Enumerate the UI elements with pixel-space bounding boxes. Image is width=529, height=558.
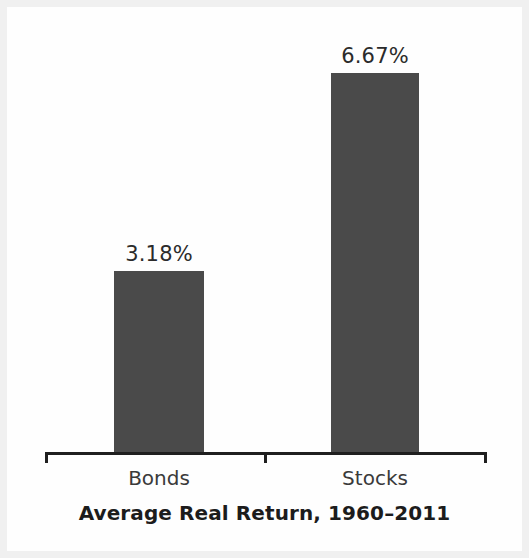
- plot-area: 3.18% 6.67%: [45, 20, 487, 452]
- x-axis-label-stocks: Stocks: [295, 466, 455, 490]
- chart-figure: 3.18% 6.67% Bonds Stocks Average Real Re…: [0, 0, 529, 558]
- x-axis-tick-left: [45, 452, 48, 463]
- x-axis-label-bonds: Bonds: [79, 466, 239, 490]
- bar-bonds[interactable]: [114, 271, 204, 452]
- x-axis-tick-center: [264, 452, 267, 463]
- bar-value-label-stocks: 6.67%: [341, 44, 409, 68]
- x-axis-tick-right: [484, 452, 487, 463]
- bar-value-label-bonds: 3.18%: [125, 242, 193, 266]
- chart-canvas: 3.18% 6.67% Bonds Stocks Average Real Re…: [7, 7, 522, 551]
- bar-stocks[interactable]: [331, 73, 419, 452]
- chart-title: Average Real Return, 1960–2011: [7, 501, 522, 525]
